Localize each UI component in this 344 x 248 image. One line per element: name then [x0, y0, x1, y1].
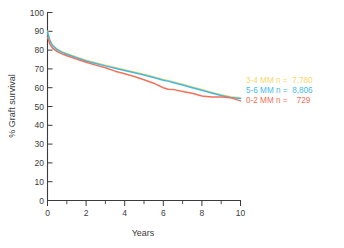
legend-item-3-4-mm: 3-4 MM n = 7,780 — [246, 76, 342, 86]
y-tick-label: 30 — [35, 139, 45, 149]
x-tick-label: 2 — [84, 208, 89, 218]
y-tick-label: 20 — [35, 158, 45, 168]
legend-item-0-2-mm: 0-2 MM n = 729 — [246, 96, 342, 106]
x-tick-label: 10 — [236, 208, 246, 218]
y-tick-label: 40 — [35, 120, 45, 130]
plot-canvas — [0, 0, 344, 248]
y-tick-label: 70 — [35, 64, 45, 74]
y-axis-title: % Graft survival — [7, 74, 17, 138]
x-tick-label: 4 — [122, 208, 127, 218]
legend-item-5-6-mm: 5-6 MM n = 8,806 — [246, 86, 342, 96]
y-tick-label: 100 — [30, 8, 44, 18]
x-tick-label: 6 — [161, 208, 166, 218]
chart-legend: 3-4 MM n = 7,780 5-6 MM n = 8,806 0-2 MM… — [246, 76, 342, 106]
chart-plot: 0 10 20 30 40 50 60 70 80 90 100 — [0, 0, 344, 248]
y-tick-label: 60 — [35, 83, 45, 93]
y-tick-label: 80 — [35, 45, 45, 55]
chart-figure: 0 10 20 30 40 50 60 70 80 90 100 — [0, 0, 344, 248]
x-axis-title: Years — [132, 228, 155, 238]
y-tick-label: 50 — [35, 102, 45, 112]
y-tick-label: 10 — [35, 177, 45, 187]
y-tick-label: 90 — [35, 26, 45, 36]
y-tick-label: 0 — [39, 196, 44, 206]
x-tick-label: 0 — [45, 208, 50, 218]
x-tick-label: 8 — [200, 208, 205, 218]
